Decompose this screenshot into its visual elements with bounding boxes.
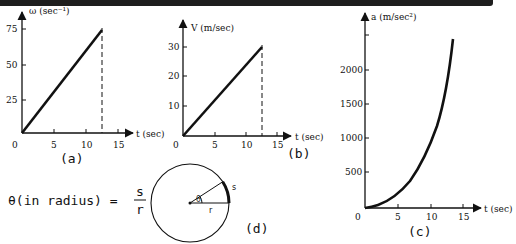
xtick-b-15: 15	[272, 140, 284, 150]
y-label-b: V (m/sec)	[190, 23, 234, 33]
origin-c: 0	[355, 212, 361, 222]
line-omega	[22, 30, 102, 133]
ytick-c-1500: 1500	[340, 99, 363, 109]
arc-s	[223, 182, 229, 203]
origin-a: 0	[12, 140, 18, 150]
x-label-a: t (sec)	[136, 129, 165, 139]
chart-a: ω (sec⁻¹) t (sec) 75 50 25 0 5 10 15 (a)	[6, 6, 165, 166]
arc-label: s	[232, 183, 236, 192]
ytick-a-50: 50	[6, 60, 18, 70]
x-label-b: t (sec)	[295, 132, 324, 142]
xtick-a-15: 15	[113, 140, 125, 150]
caption-b: (b)	[287, 146, 310, 161]
chart-c: a (m/sec²) t (sec) 2000 1500 1000 500 0 …	[340, 12, 513, 239]
diagram-d: θ s r (d)	[151, 164, 268, 242]
xtick-a-10: 10	[81, 140, 93, 150]
figure-canvas: ω (sec⁻¹) t (sec) 75 50 25 0 5 10 15 (a)…	[0, 0, 516, 244]
caption-a: (a)	[60, 151, 83, 166]
ytick-b-10: 10	[168, 101, 180, 111]
caption-d: (d)	[245, 221, 268, 236]
formula: θ(in radius) = s r	[8, 184, 146, 217]
xtick-b-5: 5	[212, 140, 218, 150]
chart-b: V (m/sec) t (sec) 30 20 10 0 5 10 15 (b)	[168, 20, 324, 161]
ytick-c-1000: 1000	[340, 133, 363, 143]
ytick-b-30: 30	[168, 42, 180, 52]
ytick-a-75: 75	[6, 24, 18, 34]
ytick-b-20: 20	[168, 71, 180, 81]
xtick-c-15: 15	[458, 212, 470, 222]
xtick-c-10: 10	[426, 212, 438, 222]
y-label-a: ω (sec⁻¹)	[29, 6, 70, 16]
origin-b: 0	[173, 140, 179, 150]
line-velocity	[183, 47, 262, 136]
caption-c: (c)	[408, 224, 431, 239]
xtick-c-5: 5	[395, 212, 401, 222]
formula-numerator: s	[136, 184, 144, 199]
radius-label: r	[209, 206, 213, 215]
radius-line-angled	[190, 182, 223, 203]
formula-denominator: r	[136, 202, 144, 217]
x-label-c: t (sec)	[484, 204, 513, 214]
y-label-c: a (m/sec²)	[371, 12, 416, 22]
formula-lhs: θ(in radius) =	[8, 193, 118, 208]
curve-acceleration	[365, 39, 453, 208]
ytick-c-2000: 2000	[340, 65, 363, 75]
ytick-a-25: 25	[6, 95, 18, 105]
ytick-c-500: 500	[345, 167, 362, 177]
xtick-b-10: 10	[241, 140, 253, 150]
angle-label: θ	[196, 195, 201, 204]
xtick-a-5: 5	[51, 140, 57, 150]
